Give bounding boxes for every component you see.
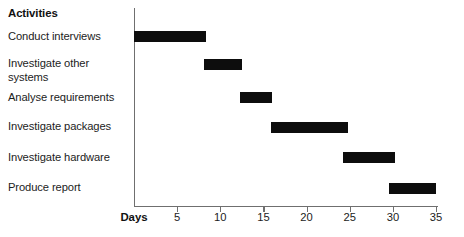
x-axis-tick-label: 20 [300, 211, 312, 223]
x-axis-tick-label: 25 [344, 211, 356, 223]
x-axis-tick-label: 5 [174, 211, 180, 223]
x-axis-title: Days [120, 211, 147, 223]
x-axis-tick-label: 30 [387, 211, 399, 223]
x-axis-tick-label: 35 [430, 211, 442, 223]
x-axis-tick-label-group: Days 5101520253035 [0, 0, 464, 237]
x-axis-tick-label: 15 [257, 211, 269, 223]
x-axis-tick-label: 10 [214, 211, 226, 223]
gantt-chart: Activities Conduct interviewsInvestigate… [0, 0, 464, 237]
